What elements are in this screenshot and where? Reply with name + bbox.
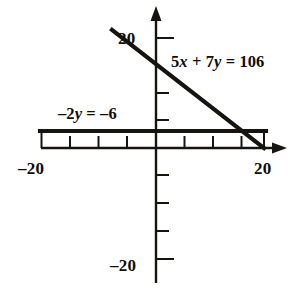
x-axis-label-negative-20: –20 [18,160,44,177]
equation-horizontal-prefix: –2 [58,104,75,123]
graph-figure: 20 –20 –20 20 5x + 7y = 106 –2y = –6 [0,0,303,293]
equation-label-horizontal-line: –2y = –6 [58,106,117,123]
x-axis-ticks [42,131,265,148]
equation-label-slanted-line: 5x + 7y = 106 [171,54,264,71]
x-axis-arrow-icon [272,143,287,154]
equation-slanted-variable-x: x [179,52,187,71]
equation-slanted-middle: + 7 [188,52,214,71]
equation-slanted-suffix: = 106 [221,52,264,71]
y-axis [151,6,162,283]
y-axis-label-20: 20 [118,30,135,47]
plotted-lines [40,30,266,148]
equation-horizontal-suffix: = –6 [82,104,117,123]
coordinate-plot [0,0,303,293]
y-axis-label-negative-20: –20 [110,257,136,274]
y-axis-arrow-icon [151,6,162,21]
x-axis-label-20: 20 [254,160,271,177]
x-axis [41,143,287,154]
